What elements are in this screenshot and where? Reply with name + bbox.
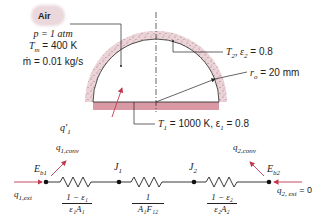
q2-ext-sub: 2, ext: [282, 190, 297, 198]
q1-prime-sub: 1: [67, 128, 71, 136]
eps2-value: = 0.8: [248, 46, 273, 57]
q1-ext-label: q1,ext: [14, 190, 32, 202]
node-eb1: [44, 180, 49, 185]
node-j1: [117, 180, 122, 185]
resistor-1-label: 1 − ε₁ ε₁A₁: [62, 192, 92, 215]
q2-conv-sub: 2,conv: [238, 147, 256, 155]
eb1-sub: b1: [40, 169, 47, 177]
eps2-symbol: , ε: [235, 46, 244, 57]
base-surface-label: T1 = 1000 K, ε1 = 0.8: [158, 119, 249, 132]
q2-ext-label: q2, ext = 0: [277, 186, 312, 198]
radius-label: ro = 20 mm: [250, 68, 299, 81]
q2-ext-value: = 0: [297, 185, 312, 195]
mass-flow-label: ṁ = 0.01 kg/s: [23, 56, 83, 67]
j1-sub: 1: [118, 167, 122, 175]
pressure-label: p = 1 atm: [33, 28, 72, 39]
node-j2: [192, 180, 197, 185]
resistor-2-numerator: 1: [132, 192, 164, 204]
resistor-2-label: 1 A₁F₁₂: [132, 192, 164, 215]
air-label: Air: [38, 11, 51, 21]
resistor-1-denominator: ε₁A₁: [62, 204, 92, 215]
fluid-properties: p = 1 atm Tm = 400 K ṁ = 0.01 kg/s: [18, 28, 88, 68]
node-eb2: [267, 180, 272, 185]
q1-ext-sub: 1,ext: [19, 194, 32, 202]
resistor-3-label: 1 − ε₂ ε₂A₂: [207, 192, 237, 215]
t1-value: = 1000 K, ε: [167, 118, 220, 129]
mean-temp-value: = 400 K: [40, 40, 78, 51]
j2-label: J2: [189, 162, 197, 175]
q1-conv-sub: 1,conv: [61, 147, 79, 155]
eb2-sub: b2: [273, 169, 280, 177]
eb1-label: Eb1: [34, 164, 47, 177]
j2-sub: 2: [193, 167, 197, 175]
resistor-2-denominator: A₁F₁₂: [132, 204, 164, 215]
resistor-1-numerator: 1 − ε₁: [62, 192, 92, 204]
eps1-value: = 0.8: [224, 118, 249, 129]
resistor-3-numerator: 1 − ε₂: [207, 192, 237, 204]
resistor-3-denominator: ε₂A₂: [207, 204, 237, 215]
q1-conv-label: q1,conv: [56, 143, 79, 155]
thermal-network: [46, 177, 269, 187]
heat-input-label: q′1: [60, 123, 71, 136]
q2-conv-label: q2,conv: [233, 143, 256, 155]
q2-conv-arrow: [250, 162, 264, 176]
radius-arrow: [156, 79, 215, 102]
radius-value: = 20 mm: [257, 67, 299, 78]
j1-label: J1: [114, 162, 122, 175]
eb2-label: Eb2: [267, 164, 280, 177]
q1-conv-arrow: [51, 161, 66, 176]
outer-surface-label: T2, ε2 = 0.8: [226, 47, 273, 60]
